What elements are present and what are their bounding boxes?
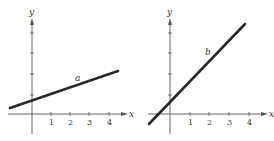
x-tick-label: 3 [227, 118, 232, 127]
x-tick-label: 4 [247, 118, 252, 127]
x-axis-label: x [129, 109, 134, 119]
y-axis-arrow-icon [168, 18, 172, 25]
graph-a: 1 2 3 4 y x a [8, 7, 134, 134]
line-b-label: b [205, 47, 211, 57]
x-axis-arrow-icon [121, 112, 128, 116]
x-tick-label: 2 [68, 118, 73, 127]
x-tick-label: 1 [188, 118, 193, 127]
y-axis-label: y [28, 7, 35, 17]
x-axis-arrow-icon [261, 112, 268, 116]
y-axis-arrow-icon [30, 18, 34, 25]
line-a-label: a [75, 73, 80, 83]
x-tick-label: 4 [107, 118, 112, 127]
x-tick-label: 2 [207, 118, 212, 127]
y-axis-label: y [166, 7, 173, 17]
x-tick-label: 3 [87, 118, 92, 127]
x-axis-label: x [269, 109, 274, 119]
x-tick-label: 1 [49, 118, 54, 127]
line-b [149, 24, 245, 124]
line-a [10, 71, 118, 108]
graph-b: 1 2 3 4 y x b [148, 7, 274, 134]
figure: 1 2 3 4 y x a 1 2 3 4 y x [0, 0, 274, 141]
